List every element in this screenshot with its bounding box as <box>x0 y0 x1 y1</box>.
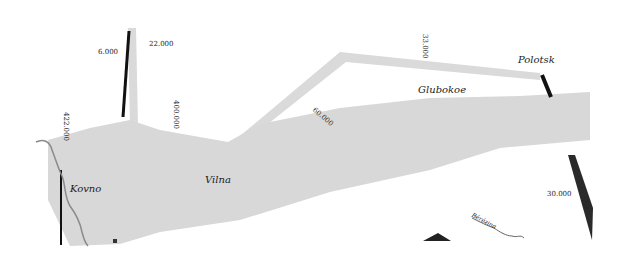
map-canvas <box>0 0 626 256</box>
retreat-line-6000 <box>123 31 129 117</box>
troop-label-22000: 22.000 <box>149 40 174 48</box>
small-marker-icon <box>113 239 117 243</box>
terrain-marker-icon <box>423 233 451 241</box>
minard-map-fragment: 6.000 22.000 422.000 400.000 60.000 33.0… <box>0 0 626 256</box>
troop-label-400000: 400.000 <box>172 100 180 129</box>
city-label-kovno: Kovno <box>70 183 101 194</box>
city-label-polotsk: Polotsk <box>518 54 555 65</box>
troop-label-422000: 422.000 <box>62 112 70 141</box>
city-label-vilna: Vilna <box>205 174 231 185</box>
troop-label-6000: 6.000 <box>98 48 118 56</box>
city-label-glubokoe: Glubokoe <box>418 84 466 95</box>
retreat-band-30000 <box>568 155 593 240</box>
troop-label-30000: 30.000 <box>547 190 572 198</box>
retreat-line-polotsk <box>542 75 551 97</box>
troop-label-33000: 33.000 <box>421 34 429 59</box>
